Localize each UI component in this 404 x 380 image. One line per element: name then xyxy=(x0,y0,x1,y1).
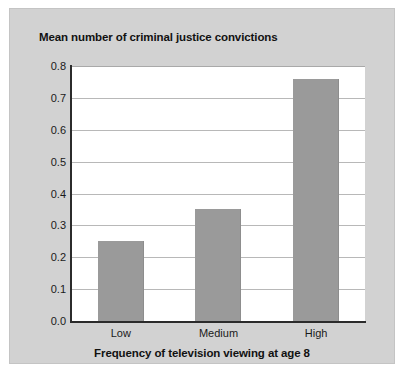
y-axis-tick-labels: 0.00.10.20.30.40.50.60.70.8 xyxy=(34,66,66,321)
y-axis-tick-label: 0.5 xyxy=(36,156,66,168)
chart-card: Mean number of criminal justice convicti… xyxy=(9,8,395,364)
bar-high xyxy=(293,79,339,321)
y-axis-tick-label: 0.6 xyxy=(36,124,66,136)
x-axis-title: Frequency of television viewing at age 8 xyxy=(10,347,394,359)
bar-low xyxy=(98,241,144,321)
bar-slot xyxy=(72,66,170,321)
y-axis-tick-label: 0.7 xyxy=(36,92,66,104)
y-axis-tick-label: 0.2 xyxy=(36,251,66,263)
x-axis-tick-label: Low xyxy=(111,327,131,339)
plot-area xyxy=(72,66,365,321)
y-axis-tick-label: 0.0 xyxy=(36,315,66,327)
x-axis-tick-label: Medium xyxy=(199,327,238,339)
bar-medium xyxy=(195,209,241,321)
figure-container: Mean number of criminal justice convicti… xyxy=(0,0,404,380)
y-axis-tick-label: 0.1 xyxy=(36,283,66,295)
y-axis-tick-label: 0.3 xyxy=(36,219,66,231)
chart-title: Mean number of criminal justice convicti… xyxy=(39,31,278,43)
bar-slot xyxy=(170,66,268,321)
bar-slot xyxy=(267,66,365,321)
y-axis-tick-label: 0.8 xyxy=(36,60,66,72)
y-axis-tick-label: 0.4 xyxy=(36,188,66,200)
x-axis-tick-label: High xyxy=(305,327,328,339)
